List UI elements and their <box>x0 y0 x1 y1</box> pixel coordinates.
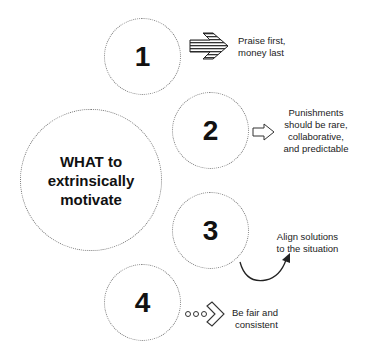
step-4-label-line: Be fair and <box>232 307 278 319</box>
central-title-line-2: extrinsically <box>48 171 135 190</box>
step-4-label: Be fair and consistent <box>232 307 278 331</box>
step-1-label-line: Praise first, <box>238 35 286 47</box>
step-2-label-line: Punishments <box>276 107 356 119</box>
step-3-label-line: Align solutions <box>265 231 350 243</box>
step-4-label-line: consistent <box>232 319 278 331</box>
step-1-circle: 1 <box>104 18 181 95</box>
step-3-number: 3 <box>203 215 219 247</box>
step-2-label-line: should be rare, <box>276 119 356 131</box>
striped-arrow-icon <box>190 33 230 59</box>
curved-arrow-icon <box>238 250 294 286</box>
central-circle: WHAT to extrinsically motivate <box>20 109 162 251</box>
step-2-label-line: collaborative, <box>276 131 356 143</box>
step-2-label-line: and predictable <box>276 143 356 155</box>
step-2-circle: 2 <box>172 92 249 169</box>
step-2-number: 2 <box>203 115 219 147</box>
step-4-number: 4 <box>135 287 151 319</box>
step-4-circle: 4 <box>104 264 181 341</box>
step-1-number: 1 <box>135 41 151 73</box>
central-title-line-3: motivate <box>48 190 135 209</box>
step-1-label-line: money last <box>238 47 286 59</box>
step-1-label: Praise first, money last <box>238 35 286 59</box>
outline-arrow-icon <box>252 123 276 141</box>
step-3-label-line: to the situation <box>265 243 350 255</box>
dotted-chevron-icon <box>184 300 230 330</box>
step-3-label: Align solutions to the situation <box>265 231 350 255</box>
step-2-label: Punishments should be rare, collaborativ… <box>276 107 356 155</box>
central-title-line-1: WHAT to <box>48 152 135 171</box>
central-title: WHAT to extrinsically motivate <box>48 152 135 209</box>
